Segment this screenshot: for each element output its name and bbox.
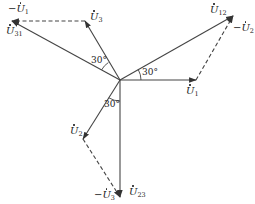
angle-arcs (102, 63, 141, 102)
angle-label-upper-left: 30° (91, 56, 107, 65)
label-neg-u1: −U1 (8, 4, 29, 16)
label-u1: U1 (186, 86, 199, 98)
angle-label-lower: 30° (104, 100, 120, 109)
phasor-u31 (12, 21, 120, 80)
label-u12: U12 (210, 5, 227, 17)
label-u2: U2 (70, 126, 83, 138)
label-u23: U23 (129, 187, 146, 199)
phasor-u2 (83, 80, 120, 139)
phasor-u12 (120, 16, 233, 80)
label-u31: U31 (6, 26, 23, 38)
arc-right (138, 70, 141, 80)
phasor-u3 (85, 21, 120, 80)
phasor-diagram-svg (0, 0, 255, 204)
angle-label-right: 30° (142, 68, 158, 77)
label-neg-u3: −U3 (94, 190, 115, 202)
phasor-diagram: −U1 U31 U3 U12 −U2 U1 U2 −U3 U23 30° 30°… (0, 0, 255, 204)
label-neg-u2: −U2 (233, 23, 254, 35)
label-u3: U3 (90, 12, 103, 24)
phasor-neg-u2 (196, 16, 233, 80)
